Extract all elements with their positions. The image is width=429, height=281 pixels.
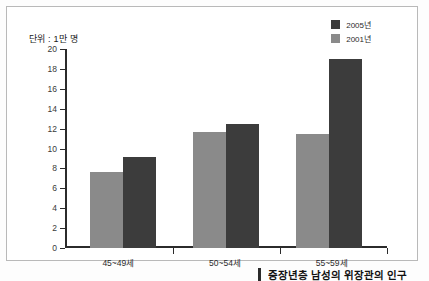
bar-group: [296, 49, 362, 248]
y-tick: [60, 248, 65, 249]
bar-group: [193, 49, 259, 248]
bar-2001년-55~59세: [296, 134, 329, 248]
bar-group: [90, 49, 156, 248]
chart-card: 단위 : 1만 명 2005년 2001년 20181614121086420 …: [6, 6, 418, 261]
legend-swatch-2005: [331, 20, 340, 29]
legend-label-2001: 2001년: [346, 33, 371, 44]
y-tick-label: 0: [52, 243, 57, 253]
figure-caption: 중장년층 남성의 위장관의 인구: [258, 266, 407, 281]
x-tick: [387, 248, 388, 254]
y-tick-label: 20: [48, 44, 57, 54]
plot-area: 20181614121086420: [65, 49, 387, 248]
y-tick-label: 8: [52, 163, 57, 173]
bar-2001년-45~49세: [90, 172, 123, 248]
x-tick: [280, 248, 281, 254]
y-tick-label: 14: [48, 104, 57, 114]
y-tick-label: 16: [48, 84, 57, 94]
y-tick-label: 2: [52, 223, 57, 233]
y-tick-label: 6: [52, 183, 57, 193]
bar-2001년-50~54세: [193, 132, 226, 248]
caption-text: 중장년층 남성의 위장관의 인구: [268, 270, 407, 281]
legend-label-2005: 2005년: [346, 19, 371, 30]
chart-screenshot: 단위 : 1만 명 2005년 2001년 20181614121086420 …: [0, 0, 429, 281]
y-tick-label: 18: [48, 64, 57, 74]
legend-swatch-2001: [331, 34, 340, 43]
y-tick-label: 10: [48, 144, 57, 154]
legend-item-2005: 2005년: [331, 19, 371, 30]
x-tick: [173, 248, 174, 254]
caption-rule-icon: [258, 268, 261, 281]
bar-2005년-45~49세: [123, 157, 156, 248]
bar-2005년-50~54세: [226, 124, 259, 248]
chart-legend: 2005년 2001년: [331, 19, 371, 44]
y-tick-label: 12: [48, 124, 57, 134]
x-axis-label: 50~54세: [209, 256, 241, 268]
bar-2005년-55~59세: [329, 59, 362, 248]
x-axis-label: 45~49세: [102, 256, 134, 268]
y-tick-label: 4: [52, 203, 57, 213]
bar-groups: [65, 49, 387, 248]
legend-item-2001: 2001년: [331, 33, 371, 44]
